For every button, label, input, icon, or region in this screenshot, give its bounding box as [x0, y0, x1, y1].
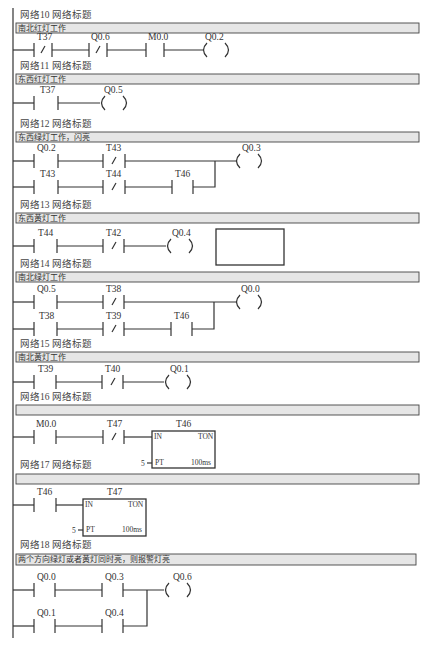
no-contact-icon[interactable]: T38 [34, 311, 57, 336]
nc-contact-icon[interactable]: T38 [103, 284, 124, 309]
network-header: 网络13 网络标题 [20, 199, 92, 210]
contact-label: M0.0 [36, 419, 57, 429]
contact-label: Q0.3 [105, 572, 124, 582]
no-contact-icon[interactable]: T39 [34, 364, 56, 389]
coil-label: Q0.1 [170, 364, 189, 374]
contact-label: T38 [106, 284, 122, 294]
timer-pt-value: 5 [141, 459, 145, 468]
timer-base: 100ms [191, 458, 211, 467]
rung: Q0.1 Q0.4 [13, 590, 147, 633]
network-comment-bar [16, 405, 419, 415]
network-18: 网络18 网络标题 两个方向绿灯或者黄灯同时亮，则报警灯亮 Q0.0 Q0.3 … [13, 539, 416, 633]
contact-label: T37 [40, 85, 56, 95]
coil-label: Q0.6 [173, 572, 192, 582]
nc-contact-icon[interactable]: T43 [103, 143, 125, 168]
network-header: 网络12 网络标题 [20, 118, 92, 129]
no-contact-icon[interactable]: Q0.2 [34, 143, 58, 168]
network-comment-bar [16, 352, 419, 362]
network-comment-bar [16, 272, 419, 282]
network-header: 网络16 网络标题 [20, 391, 92, 402]
network-comment-bar [16, 74, 419, 84]
coil-icon[interactable]: Q0.5 [102, 85, 127, 110]
timer-pt-value: 5 [72, 526, 76, 535]
coil-icon[interactable]: Q0.1 [166, 364, 191, 389]
contact-label: T39 [106, 311, 122, 321]
contact-label: M0.0 [148, 32, 169, 42]
no-contact-icon[interactable]: Q0.1 [34, 608, 56, 633]
timer-in-pin: IN [85, 500, 93, 509]
network-comment: 南北黄灯工作 [18, 352, 66, 362]
nc-contact-icon[interactable]: T40 [102, 364, 123, 389]
nc-contact-icon[interactable]: T44 [103, 169, 125, 194]
ton-timer-block[interactable]: T46 IN TON PT 100ms 5 [141, 419, 215, 468]
timer-type: TON [198, 432, 214, 441]
contact-label: Q0.2 [37, 143, 56, 153]
contact-label: T43 [40, 169, 56, 179]
timer-type: TON [128, 500, 144, 509]
rung: T43 T44 T46 [13, 161, 215, 194]
contact-label: T43 [106, 143, 122, 153]
network-17: 网络17 网络标题 T46 T47 IN TON PT 100ms 5 [13, 459, 419, 536]
network-16: 网络16 网络标题 M0.0 T47 T46 IN TON [13, 391, 419, 468]
network-comment: 两个方向绿灯或者黄灯同时亮，则报警灯亮 [18, 554, 170, 564]
coil-icon[interactable]: Q0.6 [166, 572, 192, 597]
network-header: 网络11 网络标题 [20, 60, 92, 71]
contact-label: T46 [174, 311, 190, 321]
timer-label: T47 [107, 487, 123, 497]
no-contact-icon[interactable]: Q0.0 [34, 572, 56, 597]
no-contact-icon[interactable]: T46 [172, 169, 193, 194]
network-comment: 南北绿灯工作 [18, 272, 66, 282]
nc-contact-icon[interactable]: Q0.6 [89, 32, 110, 57]
network-header: 网络15 网络标题 [20, 338, 92, 349]
no-contact-icon[interactable]: Q0.3 [102, 572, 124, 597]
nc-contact-icon[interactable]: T42 [103, 228, 124, 253]
nc-contact-icon[interactable]: T37 [34, 32, 53, 57]
rung: T39 T40 Q0.1 [13, 364, 191, 389]
network-comment: 东西绿灯工作，闪亮 [18, 132, 90, 142]
ton-timer-block[interactable]: T47 IN TON PT 100ms 5 [72, 487, 146, 536]
coil-icon[interactable]: Q0.3 [237, 143, 262, 168]
no-contact-icon[interactable]: M0.0 [146, 32, 169, 57]
contact-label: Q0.4 [105, 608, 124, 618]
no-contact-icon[interactable]: Q0.4 [102, 608, 124, 633]
no-contact-icon[interactable]: T46 [171, 311, 192, 336]
no-contact-icon[interactable]: T37 [34, 85, 58, 110]
contact-label: Q0.5 [37, 284, 56, 294]
contact-label: Q0.0 [37, 572, 56, 582]
network-12: 网络12 网络标题 东西绿灯工作，闪亮 Q0.2 T43 Q0.3 [13, 118, 419, 194]
no-contact-icon[interactable]: T43 [34, 169, 58, 194]
no-contact-icon[interactable]: T44 [34, 228, 57, 253]
network-14: 网络14 网络标题 南北绿灯工作 Q0.5 T38 Q0.0 [13, 258, 419, 336]
contact-label: T47 [107, 419, 123, 429]
contact-label: T46 [37, 487, 53, 497]
contact-label: T42 [106, 228, 122, 238]
contact-label: Q0.1 [37, 608, 56, 618]
coil-icon[interactable]: Q0.0 [237, 284, 262, 309]
nc-contact-icon[interactable]: T47 [103, 419, 124, 444]
network-comment: 东西红灯工作 [18, 74, 66, 84]
no-contact-icon[interactable]: Q0.5 [34, 284, 57, 309]
timer-in-pin: IN [154, 432, 162, 441]
rung: T37 Q0.6 M0.0 Q0.2 [13, 32, 229, 57]
no-contact-icon[interactable]: M0.0 [34, 419, 57, 444]
network-comment-bar [16, 213, 419, 223]
timer-pt-pin: PT [155, 458, 164, 467]
rung: T46 T47 IN TON PT 100ms 5 [13, 487, 146, 536]
empty-box [216, 229, 284, 265]
network-header: 网络14 网络标题 [20, 258, 92, 269]
timer-label: T46 [176, 419, 192, 429]
network-comment-bar [16, 474, 419, 484]
coil-icon[interactable]: Q0.4 [168, 228, 193, 253]
contact-label: T39 [38, 364, 54, 374]
coil-icon[interactable]: Q0.2 [204, 32, 229, 57]
contact-label: T46 [175, 169, 191, 179]
network-comment: 东西黄灯工作 [18, 213, 66, 223]
network-header: 网络18 网络标题 [20, 539, 92, 550]
rung: Q0.5 T38 Q0.0 [13, 284, 262, 309]
network-13: 网络13 网络标题 东西黄灯工作 T44 T42 Q0.4 [13, 199, 419, 265]
no-contact-icon[interactable]: T46 [34, 487, 56, 512]
contact-label: Q0.6 [91, 32, 110, 42]
timer-base: 100ms [122, 525, 142, 534]
contact-label: T44 [38, 228, 54, 238]
nc-contact-icon[interactable]: T39 [103, 311, 124, 336]
